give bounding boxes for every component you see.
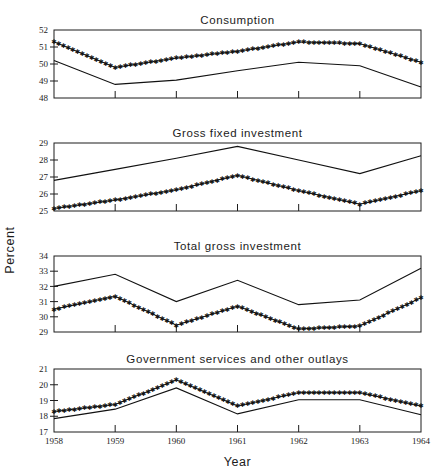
y-tick-label: 29 xyxy=(39,138,49,148)
multi-panel-chart-figure: 4849505152Consumption✱✱✱✱✱✱✱✱✱✱✱✱✱✱✱✱✱✱✱… xyxy=(0,0,432,474)
chart-panel-1: 4849505152Consumption✱✱✱✱✱✱✱✱✱✱✱✱✱✱✱✱✱✱✱… xyxy=(39,14,424,103)
panel-title-1: Consumption xyxy=(200,14,274,26)
panel-title-4: Government services and other outlays xyxy=(126,353,348,365)
x-tick-label: 1958 xyxy=(45,436,64,446)
star-marker: ✱ xyxy=(418,59,424,67)
x-axis-label: Year xyxy=(224,455,252,469)
y-tick-label: 29 xyxy=(39,327,49,337)
y-tick-label: 21 xyxy=(39,364,48,374)
y-axis-label: Percent xyxy=(3,226,17,273)
y-tick-label: 20 xyxy=(39,380,49,390)
y-tick-label: 19 xyxy=(39,396,49,406)
y-tick-label: 26 xyxy=(39,189,49,199)
y-tick-label: 33 xyxy=(39,266,49,276)
x-tick-label: 1960 xyxy=(167,436,186,446)
y-tick-label: 34 xyxy=(39,251,49,261)
y-tick-label: 48 xyxy=(39,93,49,103)
y-tick-label: 49 xyxy=(39,76,49,86)
x-tick-label: 1962 xyxy=(290,436,308,446)
panel-title-2: Gross fixed investment xyxy=(172,127,302,139)
y-tick-label: 52 xyxy=(39,25,48,35)
x-tick-label: 1959 xyxy=(106,436,125,446)
panel-title-3: Total gross investment xyxy=(174,240,302,252)
x-tick-label: 1963 xyxy=(351,436,370,446)
y-tick-label: 27 xyxy=(39,172,49,182)
star-marker: ✱ xyxy=(418,294,424,302)
chart-panel-3: 293031323334Total gross investment✱✱✱✱✱✱… xyxy=(39,240,424,337)
star-marker: ✱ xyxy=(418,187,424,195)
chart-panel-4: 1718192021Government services and other … xyxy=(39,353,431,446)
y-tick-label: 51 xyxy=(39,42,48,52)
star-marker: ✱ xyxy=(418,402,424,410)
x-tick-label: 1964 xyxy=(412,436,431,446)
x-tick-label: 1961 xyxy=(229,436,247,446)
y-tick-label: 28 xyxy=(39,155,49,165)
y-tick-label: 25 xyxy=(39,206,49,216)
y-tick-label: 32 xyxy=(39,282,48,292)
chart-canvas: 4849505152Consumption✱✱✱✱✱✱✱✱✱✱✱✱✱✱✱✱✱✱✱… xyxy=(0,0,432,474)
y-tick-label: 50 xyxy=(39,59,49,69)
y-tick-label: 18 xyxy=(39,411,49,421)
chart-panel-2: 2526272829Gross fixed investment✱✱✱✱✱✱✱✱… xyxy=(39,127,424,216)
y-tick-label: 30 xyxy=(39,312,49,322)
y-tick-label: 31 xyxy=(39,297,48,307)
